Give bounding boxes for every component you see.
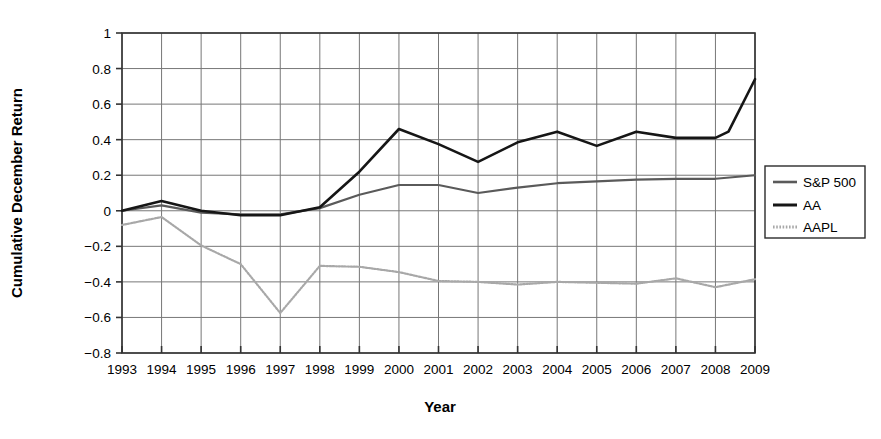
- x-tick-label: 2006: [621, 362, 651, 377]
- y-tick-label: −0.8: [84, 346, 111, 361]
- y-tick-label: 1: [103, 26, 111, 41]
- x-tick-label: 1994: [147, 362, 178, 377]
- line-chart: 1993199419951996199719981999200020012002…: [0, 0, 881, 439]
- legend-label-aapl: AAPL: [803, 220, 838, 235]
- x-tick-label: 2003: [503, 362, 533, 377]
- y-tick-label: −0.6: [84, 310, 111, 325]
- y-tick-label: −0.2: [84, 239, 111, 254]
- y-tick-label: 0: [103, 204, 111, 219]
- chart-legend: S&P 500 AA AAPL: [765, 166, 865, 238]
- x-tick-label: 2001: [423, 362, 453, 377]
- legend-label-sp500: S&P 500: [803, 175, 856, 190]
- x-tick-label: 2005: [582, 362, 612, 377]
- y-tick-label: 0.4: [92, 133, 111, 148]
- x-tick-label: 1996: [226, 362, 256, 377]
- x-tick-label: 1995: [186, 362, 216, 377]
- x-tick-label: 2007: [661, 362, 691, 377]
- chart-figure: 1993199419951996199719981999200020012002…: [0, 0, 881, 439]
- y-tick-label: 0.2: [92, 168, 111, 183]
- x-tick-label: 1993: [107, 362, 137, 377]
- x-tick-label: 2000: [384, 362, 414, 377]
- y-tick-label: 0.8: [92, 62, 111, 77]
- x-tick-label: 2008: [700, 362, 730, 377]
- x-tick-label: 1999: [344, 362, 374, 377]
- x-tick-labels: 1993199419951996199719981999200020012002…: [107, 362, 770, 377]
- x-axis-title: Year: [424, 398, 456, 415]
- x-tick-label: 2009: [740, 362, 770, 377]
- y-tick-label: −0.4: [84, 275, 111, 290]
- x-tick-label: 1997: [265, 362, 295, 377]
- y-axis-title: Cumulative December Return: [8, 88, 25, 298]
- legend-label-aa: AA: [803, 198, 821, 213]
- y-tick-label: 0.6: [92, 97, 111, 112]
- x-tick-label: 2004: [542, 362, 573, 377]
- x-tick-label: 1998: [305, 362, 335, 377]
- x-tick-label: 2002: [463, 362, 493, 377]
